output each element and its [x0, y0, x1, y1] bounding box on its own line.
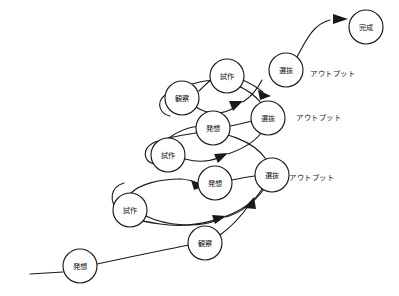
- node-label: 選抜: [261, 114, 275, 123]
- node-label: 発想: [73, 262, 87, 271]
- node-label: 観察: [198, 239, 212, 248]
- edge-selection3-to-completion: [297, 20, 330, 57]
- arrowhead-prototype3-to-selection3: [258, 90, 271, 100]
- process-diagram-svg: 発想 観察 試作 発想 選抜 試作: [0, 0, 399, 296]
- node-ideation-cycle1[interactable]: 発想: [198, 166, 232, 200]
- node-label: 完成: [359, 23, 373, 32]
- arrowhead-prototype2-lower-arc: [214, 153, 228, 163]
- node-prototype-cycle1[interactable]: 試作: [113, 193, 147, 227]
- edge-prototype2-to-ideation3: [169, 126, 199, 138]
- node-ideation-cycle2[interactable]: 発想: [196, 111, 230, 145]
- node-label: 選抜: [279, 66, 293, 75]
- node-ideation-start[interactable]: 発想: [63, 249, 97, 283]
- node-selection-cycle1[interactable]: 選抜: [255, 158, 289, 192]
- edge-ideation1-to-observation1: [97, 245, 189, 264]
- node-observation-cycle1[interactable]: 観察: [188, 226, 222, 260]
- edge-ideation3-to-selection2: [230, 121, 252, 126]
- edge-observation1-to-selection1: [220, 205, 249, 235]
- node-label: 試作: [123, 206, 137, 215]
- node-selection-cycle2[interactable]: 選抜: [251, 101, 285, 135]
- node-observation-cycle3[interactable]: 観察: [165, 81, 199, 115]
- diagram-canvas: 発想 観察 試作 発想 選抜 試作: [0, 0, 399, 296]
- output-label-layer: アウトプット アウトプット アウトプット: [289, 69, 356, 182]
- edge-prototype2-lower-arc: [185, 158, 218, 161]
- edge-lower-loop-to-selection1: [226, 189, 264, 217]
- arrowhead-selection3-to-completion: [333, 14, 348, 24]
- output-label-cycle3: アウトプット: [310, 69, 356, 78]
- edge-ideation2-to-selection1: [232, 176, 255, 180]
- node-prototype-cycle2[interactable]: 試作: [151, 138, 185, 172]
- node-label: 選抜: [265, 171, 279, 180]
- output-label-cycle1: アウトプット: [289, 173, 335, 182]
- edge-prototype1-to-ideation2-arc: [131, 179, 180, 193]
- node-label: 試作: [220, 72, 234, 81]
- node-label: 試作: [161, 151, 175, 160]
- node-prototype-cycle3[interactable]: 試作: [210, 59, 244, 93]
- node-label: 発想: [206, 124, 220, 133]
- arrowhead-prototype1-lower-arc: [212, 215, 226, 224]
- output-label-cycle2: アウトプット: [296, 113, 342, 122]
- node-layer: 発想 観察 試作 発想 選抜 試作: [63, 10, 383, 283]
- node-label: 観察: [175, 94, 189, 103]
- edge-layer: [30, 14, 348, 274]
- node-completion[interactable]: 完成: [349, 10, 383, 44]
- edge-entry-line: [30, 272, 63, 274]
- node-selection-cycle3[interactable]: 選抜: [269, 53, 303, 87]
- node-label: 発想: [208, 179, 222, 188]
